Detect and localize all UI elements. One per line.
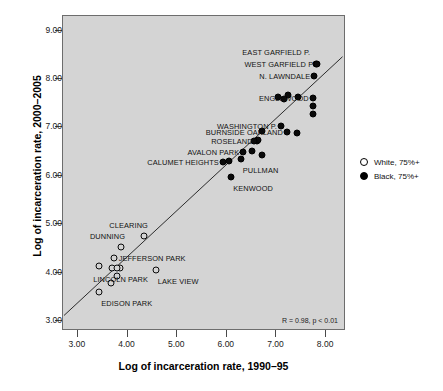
data-point-label: CLEARING — [109, 220, 148, 229]
data-point-label: WEST GARFIELD P — [244, 60, 313, 69]
y-tick: 9.00 — [0, 30, 62, 31]
data-point[interactable] — [118, 243, 125, 250]
data-point-label: AVALON PARK — [188, 147, 240, 156]
data-point[interactable] — [258, 152, 265, 159]
data-point[interactable] — [237, 156, 244, 163]
data-point-label: N. LAWNDALE — [259, 72, 310, 81]
y-tick: 7.00 — [0, 126, 62, 127]
data-point-label: DUNNING — [90, 231, 125, 240]
x-tick-mark — [325, 330, 326, 337]
data-point[interactable] — [110, 254, 117, 261]
correlation-annotation: R = 0.98, p < 0.01 — [282, 317, 338, 324]
data-point-label: KENWOOD — [233, 183, 273, 192]
data-point[interactable] — [225, 158, 232, 165]
y-tick: 6.00 — [0, 175, 62, 176]
data-point-label: EAST GARFIELD P. — [242, 47, 310, 56]
y-tick: 4.00 — [0, 272, 62, 273]
data-point[interactable] — [311, 73, 318, 80]
data-point[interactable] — [96, 263, 103, 270]
data-point[interactable] — [152, 267, 159, 274]
y-tick-label: 6.00 — [26, 170, 62, 180]
x-tick-mark — [275, 330, 276, 337]
legend-label: White, 75%+ — [374, 158, 420, 167]
plot-area: CLEARINGDUNNINGJEFFERSON PARKLINCOLN PAR… — [62, 15, 345, 330]
data-point-label: JEFFERSON PARK — [119, 253, 186, 262]
data-point-label: PULLMAN — [243, 166, 279, 175]
data-point[interactable] — [310, 110, 317, 117]
data-point[interactable] — [283, 129, 290, 136]
data-point-label: ENGLEWOOD — [259, 93, 309, 102]
x-tick-mark — [176, 330, 177, 337]
y-tick-label: 8.00 — [26, 73, 62, 83]
filled-circle-icon — [360, 172, 368, 180]
data-point[interactable] — [140, 232, 147, 239]
y-tick-label: 9.00 — [26, 25, 62, 35]
y-tick-label: 3.00 — [26, 315, 62, 325]
data-point[interactable] — [240, 148, 247, 155]
data-point[interactable] — [309, 102, 316, 109]
legend: White, 75%+Black, 75%+ — [360, 155, 420, 183]
x-tick-label: 7.00 — [255, 339, 295, 349]
data-point[interactable] — [314, 61, 321, 68]
y-tick-label: 7.00 — [26, 121, 62, 131]
data-point[interactable] — [293, 129, 300, 136]
x-tick-label: 8.00 — [305, 339, 345, 349]
open-circle-icon — [360, 158, 368, 166]
x-tick-mark — [226, 330, 227, 337]
x-tick-label: 4.00 — [107, 339, 147, 349]
y-tick-label: 5.00 — [26, 218, 62, 228]
data-point-label: BURNSIDE OAKLAND — [206, 128, 283, 137]
data-point-label: LAKE VIEW — [158, 277, 199, 286]
x-tick-mark — [127, 330, 128, 337]
legend-item[interactable]: Black, 75%+ — [360, 169, 420, 183]
data-point[interactable] — [96, 289, 103, 296]
x-tick-mark — [77, 330, 78, 337]
y-tick-label: 4.00 — [26, 267, 62, 277]
data-point-label: EDISON PARK — [101, 299, 152, 308]
data-point[interactable] — [228, 173, 235, 180]
data-point[interactable] — [309, 94, 316, 101]
scatter-plot-figure: Log of incarceration rate, 2000–2005 Log… — [0, 0, 443, 391]
data-point-label: CALUMET HEIGHTS — [147, 158, 219, 167]
legend-label: Black, 75%+ — [374, 172, 419, 181]
y-tick: 8.00 — [0, 78, 62, 79]
y-tick: 3.00 — [0, 320, 62, 321]
data-point[interactable] — [248, 148, 255, 155]
x-tick-label: 3.00 — [57, 339, 97, 349]
data-point-label: LINCOLN PARK — [93, 274, 148, 283]
y-tick: 5.00 — [0, 223, 62, 224]
x-tick-label: 6.00 — [206, 339, 246, 349]
x-tick-label: 5.00 — [156, 339, 196, 349]
x-axis-title: Log of incarceration rate, 1990–95 — [62, 360, 345, 372]
data-point[interactable] — [114, 264, 121, 271]
data-point-label: ROSELAND — [211, 137, 252, 146]
legend-item[interactable]: White, 75%+ — [360, 155, 420, 169]
